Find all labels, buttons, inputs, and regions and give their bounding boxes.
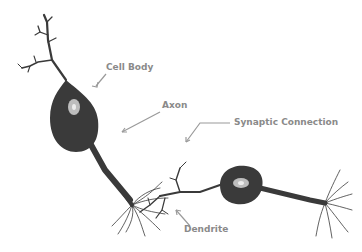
synaptic-pointer [186,123,230,142]
neuron-diagram: Cell Body Axon Synaptic Connection Dendr… [0,0,362,252]
pointer-lines [92,74,230,226]
label-axon: Axon [162,100,187,110]
label-dendrite: Dendrite [184,224,228,234]
label-cell-body: Cell Body [106,62,153,72]
axon-pointer [122,112,160,132]
cell-body-1 [50,80,98,152]
label-synaptic-connection: Synaptic Connection [234,117,338,127]
